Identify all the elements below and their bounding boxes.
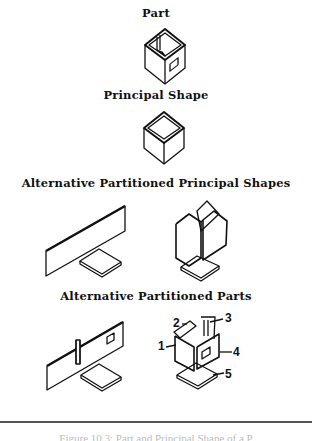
figure-caption: Figure 10.3: Part and Principal Shape of… — [0, 432, 312, 441]
diagram-drawing — [0, 0, 312, 441]
callout-4: 4 — [233, 345, 240, 359]
callout-3: 3 — [225, 311, 232, 325]
alt-parts-flat-panel — [47, 322, 123, 391]
alt-principal-folded-box — [176, 201, 227, 281]
alt-principal-flat-panel — [46, 206, 125, 277]
callout-1: 1 — [158, 339, 165, 353]
part-box — [145, 29, 185, 84]
principal-shape-box — [144, 112, 184, 164]
divider — [0, 421, 312, 423]
callout-2: 2 — [173, 316, 180, 330]
callout-5: 5 — [225, 367, 232, 381]
